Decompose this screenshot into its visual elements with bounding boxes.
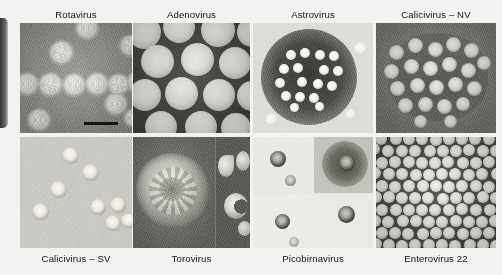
picobirnavirus-subframe-2 xyxy=(314,137,373,193)
panel-label-astrovirus: Astrovirus xyxy=(253,9,373,20)
panel-rotavirus xyxy=(20,23,132,133)
virus-micrograph-figure: Rotavirus Adenovirus Astrovirus Calicivi… xyxy=(0,0,502,275)
panel-calicivirus-sv xyxy=(20,137,132,248)
picobirnavirus-subframe-1 xyxy=(253,137,313,193)
torovirus-inset-frame xyxy=(216,137,250,248)
panel-torovirus xyxy=(133,137,250,248)
torovirus-main-frame xyxy=(133,137,215,248)
panel-label-calicivirus-nv: Calicivirus – NV xyxy=(376,9,496,20)
picobirnavirus-subframe-4 xyxy=(314,194,373,248)
panel-label-rotavirus: Rotavirus xyxy=(20,9,132,20)
panel-picobirnavirus xyxy=(253,137,373,248)
panel-label-enterovirus-22: Enterovirus 22 xyxy=(376,253,496,264)
panel-adenovirus xyxy=(133,23,250,133)
panel-label-picobirnavirus: Picobirnavirus xyxy=(253,253,373,264)
dark-rounded-tab-artifact xyxy=(0,18,8,128)
panel-label-calicivirus-sv: Calicivirus – SV xyxy=(20,253,132,264)
panel-label-torovirus: Torovirus xyxy=(133,253,250,264)
panel-label-adenovirus: Adenovirus xyxy=(133,9,250,20)
scale-bar xyxy=(84,122,118,125)
panel-astrovirus xyxy=(253,23,373,133)
picobirnavirus-subframe-3 xyxy=(253,194,313,248)
panel-calicivirus-nv xyxy=(376,23,496,133)
panel-enterovirus-22 xyxy=(376,137,496,248)
